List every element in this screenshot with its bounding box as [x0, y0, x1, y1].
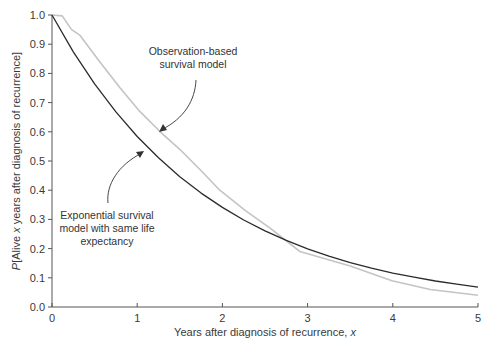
- annotation-exponential-line2: model with same life: [59, 222, 154, 234]
- x-tick-label: 4: [390, 312, 396, 324]
- y-tick-label: 0.7: [30, 97, 45, 109]
- annotation-exponential-line3: expectancy: [80, 235, 134, 247]
- arrowhead-icon: [136, 151, 144, 158]
- x-tick-label: 5: [475, 312, 481, 324]
- y-tick-label: 0.2: [30, 243, 45, 255]
- annotation-observation-line1: Observation-based: [149, 45, 238, 57]
- y-tick-label: 0.0: [30, 301, 45, 313]
- y-axis-label: P[Alive x years after diagnosis of recur…: [10, 52, 22, 270]
- annotation-exponential-line1: Exponential survival: [60, 209, 153, 221]
- x-tick-label: 2: [219, 312, 225, 324]
- x-ticks: 012345: [49, 303, 481, 324]
- observation-survival-line: [52, 15, 478, 295]
- x-tick-label: 1: [134, 312, 140, 324]
- annotation-observation-arrow: [161, 80, 196, 130]
- annotation-observation: Observation-based survival model: [149, 45, 238, 132]
- y-tick-label: 0.5: [30, 155, 45, 167]
- y-tick-label: 0.1: [30, 272, 45, 284]
- annotation-observation-line2: survival model: [159, 58, 226, 70]
- plot-series: [52, 15, 478, 295]
- annotation-exponential: Exponential survival model with same lif…: [59, 151, 154, 247]
- x-tick-label: 3: [305, 312, 311, 324]
- y-ticks: 0.00.10.20.30.40.50.60.70.80.91.0: [30, 9, 52, 313]
- survival-chart: 0.00.10.20.30.40.50.60.70.80.91.0 012345…: [0, 0, 490, 350]
- y-tick-label: 0.9: [30, 38, 45, 50]
- x-axis-label: Years after diagnosis of recurrence, x: [174, 326, 356, 338]
- annotation-exponential-arrow: [108, 153, 142, 203]
- y-tick-label: 0.4: [30, 184, 45, 196]
- x-tick-label: 0: [49, 312, 55, 324]
- y-tick-label: 0.3: [30, 213, 45, 225]
- y-tick-label: 0.8: [30, 67, 45, 79]
- y-tick-label: 1.0: [30, 9, 45, 21]
- arrowhead-icon: [159, 124, 167, 132]
- y-tick-label: 0.6: [30, 126, 45, 138]
